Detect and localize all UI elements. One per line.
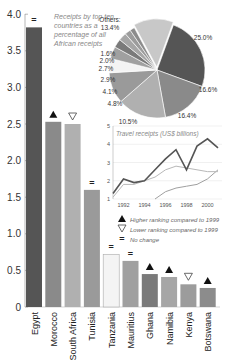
y-tick-label: 3.5 <box>7 45 21 56</box>
y-tick-label: 2.5 <box>7 119 21 130</box>
equals-icon: = <box>119 234 124 244</box>
pie-value-label: 2.9% <box>101 76 116 83</box>
bar-mauritius <box>123 261 139 307</box>
line-x-tick: 1992 <box>117 202 129 208</box>
y-tick-label: 2.0 <box>7 155 21 166</box>
pie-value-label: 25.0% <box>194 34 213 41</box>
line-y-tick: 1 <box>107 196 110 202</box>
x-tick-label: Tanzania <box>107 312 117 348</box>
line-y-tick: 5 <box>107 123 110 129</box>
line-y-tick: 2 <box>107 178 110 184</box>
triangle-down-icon <box>69 113 77 120</box>
line-x-tick: 2000 <box>201 202 213 208</box>
equals-icon: = <box>109 242 114 252</box>
x-tick-label: Kenya <box>184 312 194 338</box>
y-tick-label: 1.0 <box>7 228 21 239</box>
line-chart-title: Travel receipts (US$ billions) <box>116 130 199 138</box>
pie-value-label: 2.7% <box>99 65 114 72</box>
x-tick-label: Namibia <box>165 312 175 345</box>
pie-value-label: 1.6% <box>101 50 116 57</box>
bar-tanzania <box>103 254 119 307</box>
pie-value-label: 10.5% <box>119 118 138 125</box>
x-tick-label: South Africa <box>68 312 78 361</box>
pie-value-label: 2.0% <box>100 57 115 64</box>
pie-value-label: 16.4% <box>178 112 197 119</box>
bar-tunisia <box>84 190 100 307</box>
y-tick-label: 3.0 <box>7 82 21 93</box>
bar-egypt <box>26 27 42 307</box>
x-tick-label: Mauritius <box>126 312 136 349</box>
triangle-up-icon <box>49 111 57 118</box>
bar-x-labels: EgyptMoroccoSouth AfricaTunisiaTanzaniaM… <box>30 312 214 361</box>
triangle-up-icon <box>118 215 126 222</box>
pie-value-label: 4.1% <box>103 88 118 95</box>
equals-icon: = <box>31 15 36 25</box>
pie-chart: 25.0%16.6%16.4%10.5%4.8%4.1%2.9%2.7%2.0%… <box>99 16 218 125</box>
triangle-up-icon <box>165 266 173 273</box>
y-tick-label: 1.5 <box>7 192 21 203</box>
triangle-down-icon <box>118 225 126 232</box>
pie-value-label: 4.8% <box>108 100 123 107</box>
ranking-legend: Higher ranking compared to 1999Lower ran… <box>118 215 220 244</box>
pie-value-label: 16.6% <box>199 86 218 93</box>
y-tick-label: 0 <box>15 302 21 313</box>
equals-icon: = <box>128 249 133 259</box>
chart-canvas: 00.51.01.52.02.53.03.54.0 ==== EgyptMoro… <box>0 0 227 361</box>
x-tick-label: Botswana <box>203 312 213 352</box>
line-x-tick: 1996 <box>159 202 171 208</box>
line-y-tick: 3 <box>107 160 110 166</box>
bar-kenya <box>180 284 196 307</box>
line-x-tick: 1998 <box>180 202 192 208</box>
pie-value-label: 13.4% <box>101 24 120 31</box>
triangle-up-icon <box>204 277 212 284</box>
legend-label-same: No change <box>130 237 160 243</box>
bar-namibia <box>161 277 177 307</box>
legend-label-lower: Lower ranking compared to 1999 <box>130 227 218 233</box>
bar-ghana <box>142 274 158 307</box>
pie-others-label: Others: <box>99 16 121 23</box>
line-chart-inset: 1234519921994199619982000Travel receipts… <box>107 123 222 208</box>
y-tick-label: 4.0 <box>7 9 21 20</box>
triangle-up-icon <box>146 263 154 270</box>
x-tick-label: Morocco <box>49 312 59 347</box>
x-tick-label: Egypt <box>30 312 40 336</box>
line-y-tick: 4 <box>107 141 110 147</box>
legend-label-higher: Higher ranking compared to 1999 <box>130 217 220 223</box>
equals-icon: = <box>89 178 94 188</box>
x-tick-label: Ghana <box>145 312 155 339</box>
y-tick-label: 0.5 <box>7 265 21 276</box>
bar-south-africa <box>65 124 81 307</box>
x-tick-label: Tunisia <box>87 312 97 341</box>
line-x-tick: 1994 <box>138 202 150 208</box>
bar-morocco <box>45 122 61 307</box>
bar-botswana <box>200 288 216 307</box>
triangle-down-icon <box>184 273 192 280</box>
